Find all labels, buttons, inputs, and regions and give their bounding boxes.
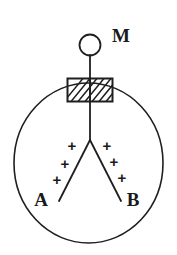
metal-knob-icon xyxy=(80,35,101,56)
charge-plus-right-2: + xyxy=(110,153,119,170)
electroscope-figure: + + + + + + M A B xyxy=(0,0,177,255)
charge-plus-right-1: + xyxy=(103,137,112,154)
electroscope-diagram: + + + + + + M A B xyxy=(0,0,177,255)
label-leaf-a: A xyxy=(34,189,48,210)
charge-plus-left-2: + xyxy=(61,155,70,172)
charge-plus-left-1: + xyxy=(68,137,77,154)
label-leaf-b: B xyxy=(127,189,140,210)
glass-vessel-outline xyxy=(14,83,163,243)
charge-plus-left-3: + xyxy=(53,171,62,188)
charge-plus-right-3: + xyxy=(118,169,127,186)
label-knob-m: M xyxy=(112,25,130,46)
stopper-hatching xyxy=(62,76,134,104)
insulating-stopper xyxy=(62,76,134,104)
